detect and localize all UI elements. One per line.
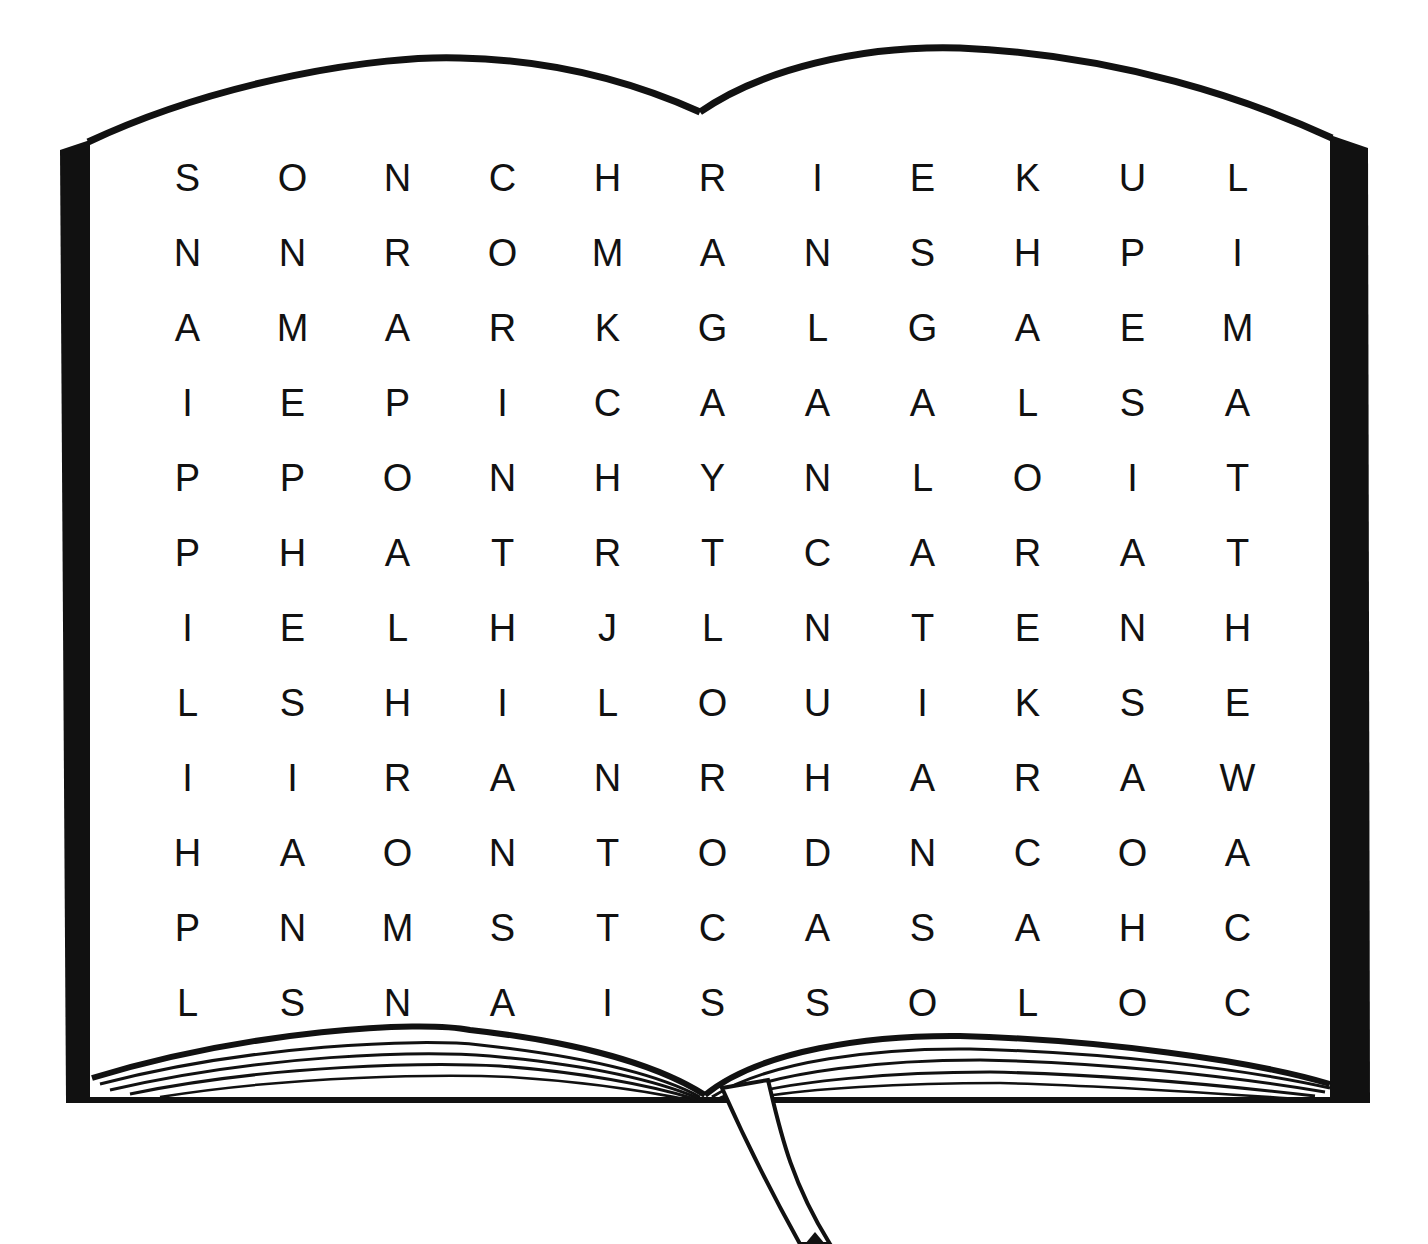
- grid-cell[interactable]: A: [660, 365, 765, 440]
- grid-cell[interactable]: S: [1080, 665, 1185, 740]
- grid-cell[interactable]: P: [135, 440, 240, 515]
- grid-cell[interactable]: C: [1185, 890, 1290, 965]
- grid-cell[interactable]: L: [975, 965, 1080, 1040]
- grid-cell[interactable]: K: [975, 665, 1080, 740]
- grid-cell[interactable]: G: [660, 290, 765, 365]
- grid-cell[interactable]: I: [135, 590, 240, 665]
- grid-cell[interactable]: L: [975, 365, 1080, 440]
- grid-cell[interactable]: O: [345, 815, 450, 890]
- grid-cell[interactable]: O: [1080, 965, 1185, 1040]
- grid-cell[interactable]: O: [345, 440, 450, 515]
- grid-cell[interactable]: A: [135, 290, 240, 365]
- grid-cell[interactable]: O: [660, 665, 765, 740]
- grid-cell[interactable]: H: [1080, 890, 1185, 965]
- grid-cell[interactable]: S: [450, 890, 555, 965]
- grid-cell[interactable]: H: [765, 740, 870, 815]
- grid-cell[interactable]: A: [765, 365, 870, 440]
- grid-cell[interactable]: Y: [660, 440, 765, 515]
- grid-cell[interactable]: R: [555, 515, 660, 590]
- grid-cell[interactable]: N: [765, 440, 870, 515]
- grid-cell[interactable]: L: [1185, 140, 1290, 215]
- grid-cell[interactable]: R: [660, 140, 765, 215]
- grid-cell[interactable]: U: [1080, 140, 1185, 215]
- grid-cell[interactable]: A: [870, 515, 975, 590]
- grid-cell[interactable]: H: [135, 815, 240, 890]
- grid-cell[interactable]: A: [1185, 815, 1290, 890]
- grid-cell[interactable]: A: [1080, 515, 1185, 590]
- grid-cell[interactable]: I: [240, 740, 345, 815]
- grid-cell[interactable]: I: [555, 965, 660, 1040]
- grid-cell[interactable]: T: [555, 815, 660, 890]
- grid-cell[interactable]: L: [660, 590, 765, 665]
- grid-cell[interactable]: S: [240, 965, 345, 1040]
- grid-cell[interactable]: T: [1185, 440, 1290, 515]
- grid-cell[interactable]: H: [450, 590, 555, 665]
- grid-cell[interactable]: T: [555, 890, 660, 965]
- grid-cell[interactable]: E: [240, 590, 345, 665]
- grid-cell[interactable]: C: [555, 365, 660, 440]
- grid-cell[interactable]: H: [345, 665, 450, 740]
- grid-cell[interactable]: R: [345, 215, 450, 290]
- grid-cell[interactable]: R: [975, 740, 1080, 815]
- grid-cell[interactable]: N: [240, 215, 345, 290]
- grid-cell[interactable]: S: [660, 965, 765, 1040]
- grid-cell[interactable]: C: [975, 815, 1080, 890]
- grid-cell[interactable]: L: [555, 665, 660, 740]
- grid-cell[interactable]: G: [870, 290, 975, 365]
- grid-cell[interactable]: N: [135, 215, 240, 290]
- grid-cell[interactable]: U: [765, 665, 870, 740]
- word-search-grid[interactable]: SONCHRIEKULNNROMANSHPIAMARKGLGAEMIEPICAA…: [135, 140, 1290, 1040]
- grid-cell[interactable]: E: [975, 590, 1080, 665]
- grid-cell[interactable]: S: [240, 665, 345, 740]
- grid-cell[interactable]: O: [450, 215, 555, 290]
- grid-cell[interactable]: A: [345, 515, 450, 590]
- grid-cell[interactable]: T: [870, 590, 975, 665]
- grid-cell[interactable]: N: [450, 815, 555, 890]
- grid-cell[interactable]: I: [1185, 215, 1290, 290]
- grid-cell[interactable]: I: [450, 665, 555, 740]
- grid-cell[interactable]: I: [765, 140, 870, 215]
- grid-cell[interactable]: S: [1080, 365, 1185, 440]
- grid-cell[interactable]: A: [975, 290, 1080, 365]
- grid-cell[interactable]: O: [240, 140, 345, 215]
- grid-cell[interactable]: C: [450, 140, 555, 215]
- grid-cell[interactable]: A: [870, 740, 975, 815]
- grid-cell[interactable]: N: [345, 965, 450, 1040]
- grid-cell[interactable]: I: [135, 740, 240, 815]
- grid-cell[interactable]: L: [765, 290, 870, 365]
- grid-cell[interactable]: C: [660, 890, 765, 965]
- grid-cell[interactable]: R: [345, 740, 450, 815]
- grid-cell[interactable]: P: [1080, 215, 1185, 290]
- grid-cell[interactable]: H: [555, 440, 660, 515]
- grid-cell[interactable]: I: [870, 665, 975, 740]
- grid-cell[interactable]: S: [135, 140, 240, 215]
- grid-cell[interactable]: H: [1185, 590, 1290, 665]
- grid-cell[interactable]: E: [1185, 665, 1290, 740]
- grid-cell[interactable]: M: [240, 290, 345, 365]
- grid-cell[interactable]: N: [450, 440, 555, 515]
- grid-cell[interactable]: N: [765, 590, 870, 665]
- grid-cell[interactable]: H: [975, 215, 1080, 290]
- grid-cell[interactable]: N: [555, 740, 660, 815]
- grid-cell[interactable]: A: [1080, 740, 1185, 815]
- grid-cell[interactable]: O: [1080, 815, 1185, 890]
- grid-cell[interactable]: T: [660, 515, 765, 590]
- grid-cell[interactable]: S: [870, 890, 975, 965]
- grid-cell[interactable]: I: [1080, 440, 1185, 515]
- grid-cell[interactable]: T: [450, 515, 555, 590]
- grid-cell[interactable]: L: [135, 965, 240, 1040]
- grid-cell[interactable]: O: [870, 965, 975, 1040]
- grid-cell[interactable]: O: [660, 815, 765, 890]
- grid-cell[interactable]: N: [765, 215, 870, 290]
- grid-cell[interactable]: A: [450, 965, 555, 1040]
- grid-cell[interactable]: R: [450, 290, 555, 365]
- grid-cell[interactable]: I: [135, 365, 240, 440]
- grid-cell[interactable]: R: [975, 515, 1080, 590]
- grid-cell[interactable]: I: [450, 365, 555, 440]
- grid-cell[interactable]: K: [975, 140, 1080, 215]
- grid-cell[interactable]: P: [135, 515, 240, 590]
- grid-cell[interactable]: E: [1080, 290, 1185, 365]
- grid-cell[interactable]: O: [975, 440, 1080, 515]
- grid-cell[interactable]: L: [135, 665, 240, 740]
- grid-cell[interactable]: A: [345, 290, 450, 365]
